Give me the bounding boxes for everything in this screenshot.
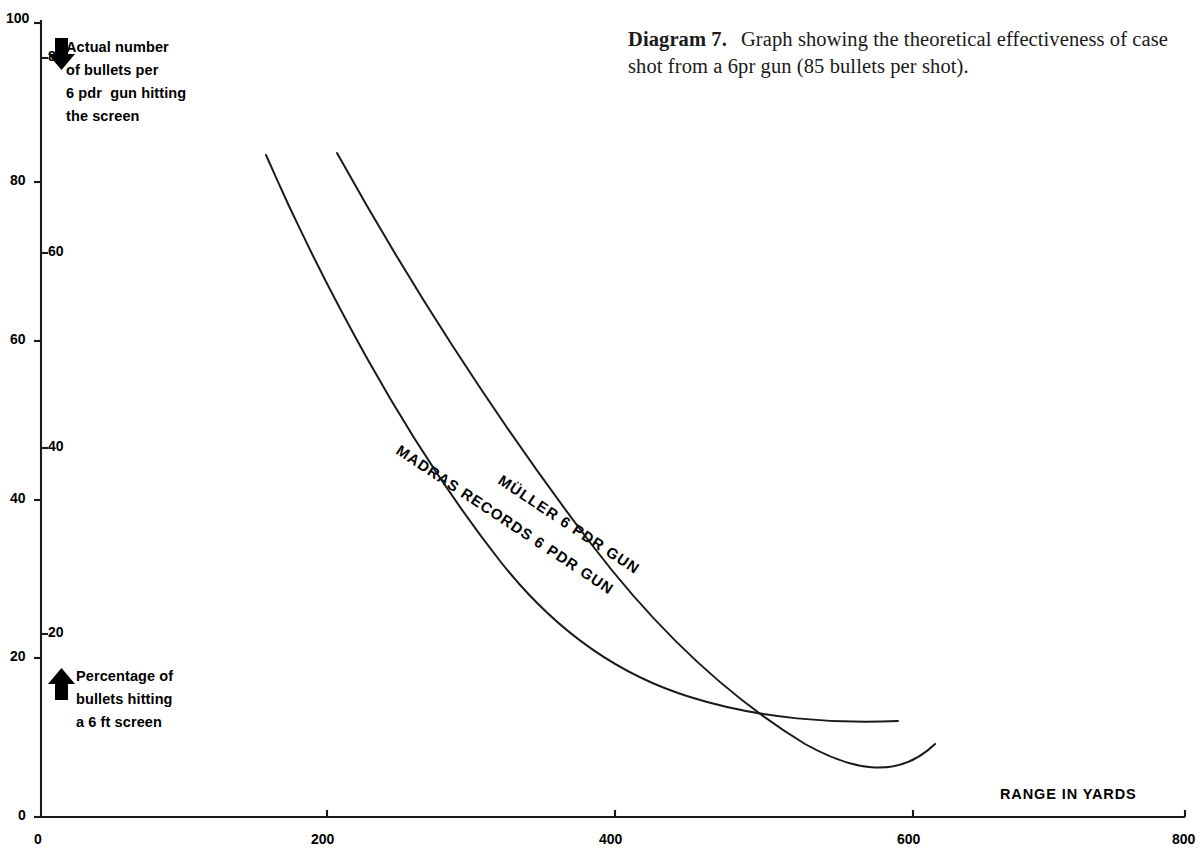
diagram-figure: Diagram 7.Graph showing the theoretical … (0, 0, 1202, 863)
down-arrow-icon (48, 38, 75, 70)
curve-madras (266, 155, 898, 722)
plot-area (0, 0, 1202, 863)
up-arrow-icon (48, 668, 75, 700)
